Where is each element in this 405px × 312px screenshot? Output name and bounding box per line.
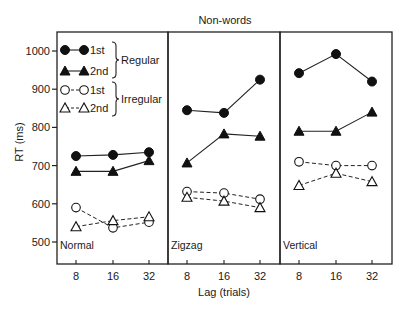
open-triangle-marker — [79, 103, 89, 112]
filled-circle-marker — [183, 106, 192, 115]
open-triangle-marker — [255, 203, 265, 212]
x-axis-label: Lag (trials) — [198, 286, 250, 298]
legend-label: 1st — [90, 84, 105, 96]
x-tick-label: 32 — [143, 270, 155, 282]
x-tick-label: 16 — [218, 270, 230, 282]
filled-circle-marker — [368, 77, 377, 86]
filled-circle-marker — [332, 50, 341, 59]
filled-circle-marker — [256, 75, 265, 84]
chart-title: Non-words — [198, 14, 252, 26]
x-tick-label: 16 — [330, 270, 342, 282]
series-regular-2nd — [182, 129, 265, 167]
x-tick-label: 32 — [254, 270, 266, 282]
legend-item: 2nd — [60, 65, 108, 77]
open-triangle-marker — [144, 212, 154, 221]
filled-triangle-marker — [144, 156, 154, 165]
y-tick-label: 800 — [32, 121, 50, 133]
legend-group-label: Irregular — [121, 93, 162, 105]
legend-item: 2nd — [60, 102, 108, 114]
series-irregular-2nd — [294, 168, 377, 189]
filled-triangle-marker — [367, 107, 377, 116]
line-chart: Non-words RT (ms) Lag (trials) 500600700… — [0, 0, 405, 312]
legend-group-label: Regular — [121, 54, 160, 66]
legend-item: 1st — [61, 84, 105, 96]
x-tick-label: 8 — [73, 270, 79, 282]
filled-triangle-marker — [182, 158, 192, 167]
x-tick-label: 16 — [107, 270, 119, 282]
x-tick-label: 8 — [184, 270, 190, 282]
panel-zigzag: 81632Zigzag — [168, 32, 280, 282]
legend-item: 1st — [61, 44, 105, 56]
y-axis-label: RT (ms) — [13, 122, 25, 161]
panel-label: Vertical — [283, 239, 317, 251]
open-circle-marker — [61, 86, 70, 95]
legend-label: 2nd — [90, 102, 108, 114]
series-regular-1st — [72, 148, 154, 161]
legend-label: 1st — [90, 44, 105, 56]
filled-circle-marker — [80, 46, 89, 55]
y-tick-label: 600 — [32, 198, 50, 210]
filled-circle-marker — [109, 150, 118, 159]
panel-frame — [168, 32, 280, 264]
filled-circle-marker — [220, 108, 229, 117]
legend: 1st2nd1st2ndRegularIrregular — [60, 42, 162, 116]
filled-circle-marker — [61, 46, 70, 55]
y-tick-label: 500 — [32, 236, 50, 248]
open-triangle-marker — [294, 180, 304, 189]
panel-label: Normal — [60, 239, 94, 251]
x-tick-label: 8 — [296, 270, 302, 282]
y-tick-label: 700 — [32, 160, 50, 172]
filled-circle-marker — [295, 69, 304, 78]
legend-brace — [112, 82, 119, 116]
open-triangle-marker — [331, 168, 341, 177]
open-circle-marker — [295, 157, 304, 166]
open-circle-marker — [72, 203, 81, 212]
open-circle-marker — [368, 161, 377, 170]
open-circle-marker — [80, 86, 89, 95]
panel-normal: 81632Normal — [57, 32, 168, 282]
filled-circle-marker — [72, 152, 81, 161]
filled-triangle-marker — [219, 129, 229, 138]
panel-label: Zigzag — [171, 239, 203, 251]
y-axis: 5006007008009001000 — [26, 45, 57, 248]
y-tick-label: 900 — [32, 83, 50, 95]
legend-brace — [112, 42, 119, 78]
panel-vertical: 81632Vertical — [280, 32, 392, 282]
panel-frame — [280, 32, 392, 264]
legend-label: 2nd — [90, 65, 108, 77]
series-regular-1st — [183, 75, 265, 117]
x-tick-label: 32 — [366, 270, 378, 282]
series-line — [187, 80, 260, 113]
series-regular-1st — [295, 50, 377, 87]
series-regular-2nd — [294, 107, 377, 135]
y-tick-label: 1000 — [26, 45, 50, 57]
